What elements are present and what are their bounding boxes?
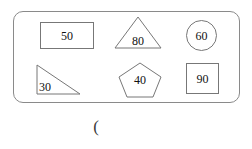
shape-square-90: 90 [186, 63, 219, 94]
shape-label-90: 90 [187, 73, 218, 85]
shape-label-50: 50 [41, 30, 93, 42]
diagram-canvas: 50 80 60 30 40 90 ( [0, 0, 252, 149]
shape-right-triangle-30: 30 [36, 64, 81, 95]
shape-pentagon-40: 40 [118, 62, 162, 98]
shape-label-80: 80 [114, 35, 162, 47]
shape-label-60: 60 [187, 30, 216, 42]
shape-triangle-80: 80 [114, 16, 162, 49]
shape-rectangle-50: 50 [40, 22, 94, 49]
shape-circle-60: 60 [186, 20, 217, 51]
caption-text: ( [86, 118, 106, 135]
shape-label-40: 40 [118, 74, 162, 86]
shape-label-30: 30 [39, 81, 51, 93]
